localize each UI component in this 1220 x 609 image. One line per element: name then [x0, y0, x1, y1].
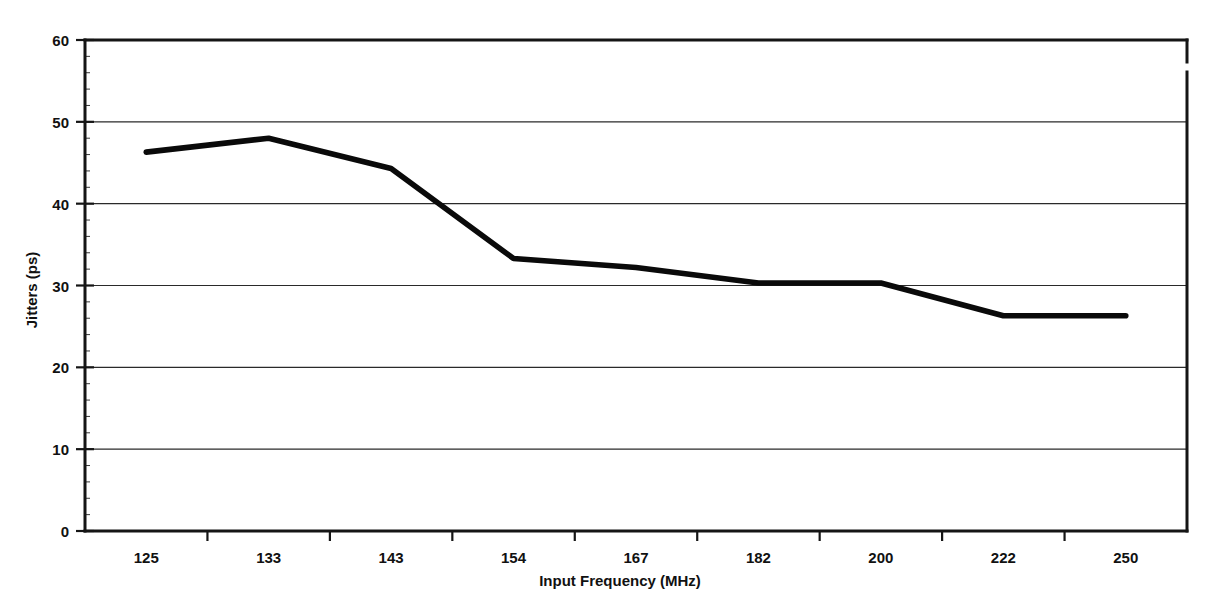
chart-background — [0, 0, 1220, 609]
x-tick-label-167: 167 — [623, 549, 648, 566]
line-chart-plot: 0102030405060 12513314315416718220022225… — [0, 0, 1220, 609]
x-tick-label-125: 125 — [134, 549, 159, 566]
x-tick-label-200: 200 — [868, 549, 893, 566]
chart-figure: 0102030405060 12513314315416718220022225… — [0, 0, 1220, 609]
y-tick-label-60: 60 — [52, 32, 69, 49]
x-tick-label-154: 154 — [501, 549, 527, 566]
x-tick-label-222: 222 — [991, 549, 1016, 566]
x-tick-label-143: 143 — [379, 549, 404, 566]
y-tick-label-50: 50 — [52, 114, 69, 131]
y-axis-title: Jitters (ps) — [23, 252, 40, 329]
y-tick-label-30: 30 — [52, 278, 69, 295]
x-tick-label-133: 133 — [256, 549, 281, 566]
y-tick-label-40: 40 — [52, 196, 69, 213]
x-axis-title: Input Frequency (MHz) — [539, 572, 701, 589]
y-tick-label-10: 10 — [52, 441, 69, 458]
x-tick-label-182: 182 — [746, 549, 771, 566]
y-tick-label-0: 0 — [61, 523, 69, 540]
x-tick-label-250: 250 — [1113, 549, 1138, 566]
y-tick-label-20: 20 — [52, 359, 69, 376]
